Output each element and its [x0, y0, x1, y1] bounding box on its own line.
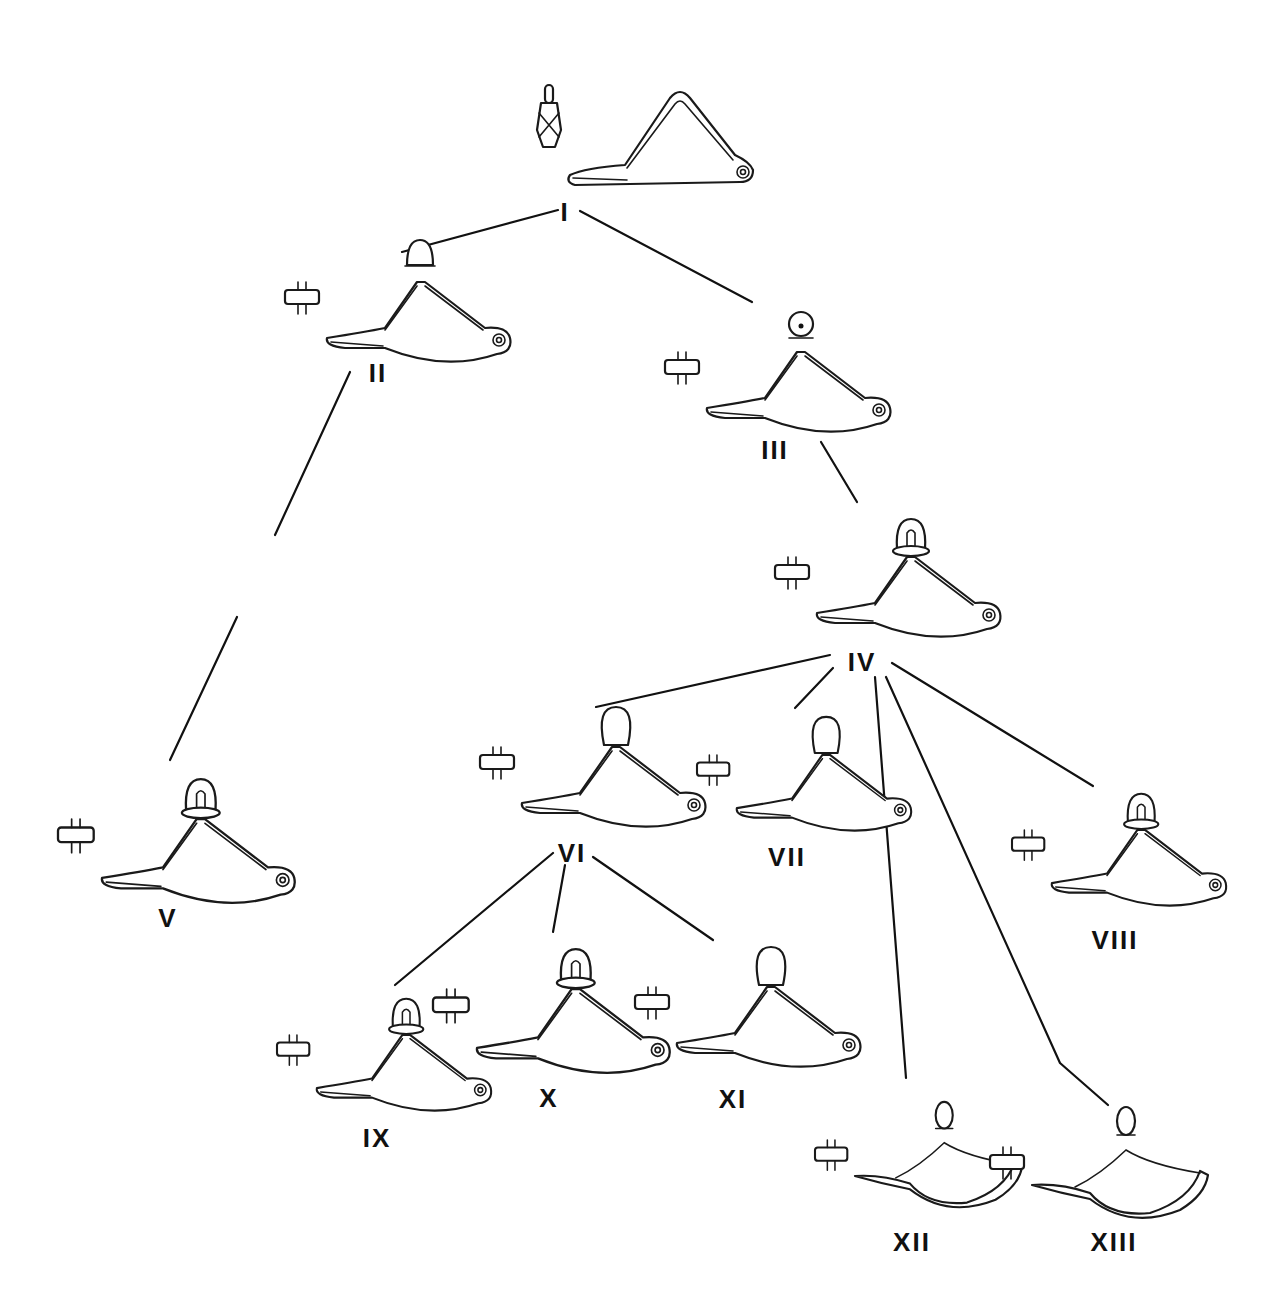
- edge-ii-to-v: [275, 372, 350, 535]
- edge-iv-to-vii: [795, 668, 833, 708]
- node-label-xiii: XIII: [1090, 1229, 1137, 1255]
- fibula-drawings: [58, 85, 1226, 1218]
- edge-i-to-iii: [580, 211, 752, 302]
- edge-vi-to-ix: [395, 853, 553, 985]
- node-label-xi: XI: [719, 1086, 748, 1112]
- fibula-ii-drawing: [285, 240, 510, 362]
- fibula-v-drawing: [58, 779, 295, 903]
- tree-edges: [170, 210, 1108, 1105]
- node-label-i: I: [560, 199, 569, 225]
- edge-vi-to-x: [553, 865, 565, 932]
- edge-vi-to-xi: [593, 857, 713, 940]
- fibula-iv-drawing: [775, 519, 1000, 637]
- edge-iv-to-vi: [596, 655, 830, 707]
- fibula-typology-diagram: [0, 0, 1262, 1308]
- fibula-vi-drawing: [480, 707, 705, 827]
- node-label-vi: VI: [558, 840, 587, 866]
- edge-iii-to-iv: [821, 442, 857, 502]
- node-label-viii: VIII: [1091, 927, 1138, 953]
- fibula-ix-drawing: [277, 999, 491, 1111]
- node-label-v: V: [158, 905, 177, 931]
- fibula-viii-drawing: [1012, 794, 1226, 906]
- node-label-xii: XII: [893, 1229, 931, 1255]
- edge-ii-to-v: [170, 617, 237, 760]
- fibula-i-drawing: [537, 85, 753, 185]
- node-label-iii: III: [761, 437, 789, 463]
- edge-iv-to-xii: [875, 677, 906, 1078]
- node-label-vii: VII: [768, 844, 806, 870]
- node-label-ix: IX: [363, 1125, 392, 1151]
- fibula-xiii-drawing: [990, 1107, 1208, 1218]
- fibula-iii-drawing: [665, 312, 890, 432]
- fibula-x-drawing: [433, 949, 670, 1073]
- node-label-iv: IV: [848, 649, 877, 675]
- edge-iv-to-viii: [892, 663, 1093, 786]
- node-label-ii: II: [369, 360, 387, 386]
- node-label-x: X: [539, 1085, 558, 1111]
